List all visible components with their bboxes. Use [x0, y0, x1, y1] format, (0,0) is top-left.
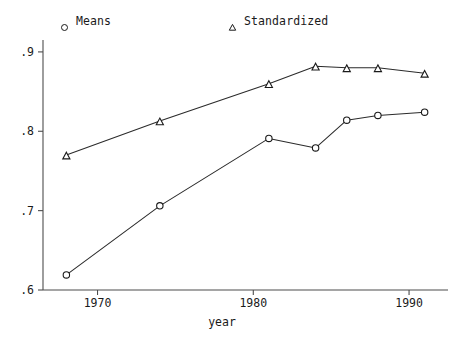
y-tick-label: .7: [20, 204, 34, 218]
circle-marker-icon: [157, 203, 163, 209]
y-axis-ticks: [38, 52, 43, 290]
circle-marker-icon: [266, 135, 272, 141]
x-tick-label: 1970: [84, 296, 112, 310]
x-axis-tick-labels: 197019801990: [84, 296, 423, 310]
x-tick-label: 1990: [395, 296, 423, 310]
series-markers: [63, 63, 428, 278]
series-line-standardized: [66, 66, 424, 155]
y-axis-tick-labels: .6.7.8.9: [20, 45, 34, 297]
x-tick-label: 1980: [239, 296, 267, 310]
triangle-marker-icon: [63, 152, 70, 159]
circle-marker-icon: [344, 117, 350, 123]
series-line-means: [66, 112, 424, 275]
circle-marker-icon: [63, 272, 69, 278]
chart-figure: Means Standardized .6.7.8.9 197019801990…: [0, 0, 450, 343]
series-lines: [66, 66, 424, 275]
circle-marker-icon: [375, 112, 381, 118]
y-tick-label: .6: [20, 283, 34, 297]
circle-marker-icon: [312, 145, 318, 151]
x-axis-ticks: [98, 290, 410, 295]
y-tick-label: .9: [20, 45, 34, 59]
chart-plot-area: .6.7.8.9 197019801990 year: [0, 0, 450, 343]
triangle-marker-icon: [421, 70, 428, 77]
y-tick-label: .8: [20, 124, 34, 138]
circle-marker-icon: [421, 109, 427, 115]
x-axis-title: year: [208, 315, 236, 329]
